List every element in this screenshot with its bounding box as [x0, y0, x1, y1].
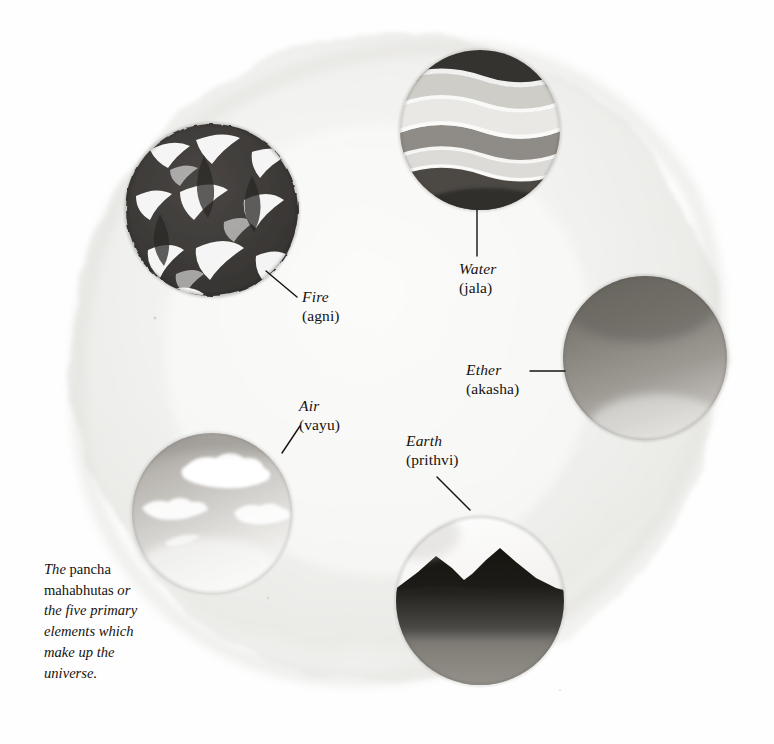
label-water-sanskrit: (jala)	[459, 279, 496, 298]
caption-line4: elements which	[44, 623, 134, 639]
label-ether: Ether (akasha)	[466, 361, 519, 399]
label-air-english: Air	[299, 397, 340, 416]
caption-mahabhutas: mahabhutas	[44, 582, 117, 598]
label-fire-english: Fire	[302, 288, 340, 307]
label-earth-sanskrit: (prithvi)	[406, 451, 459, 470]
caption-pancha: pancha	[66, 561, 111, 577]
label-air: Air (vayu)	[299, 397, 340, 435]
caption-line5: make up the	[44, 644, 115, 660]
label-fire: Fire (agni)	[302, 288, 340, 326]
label-earth: Earth (prithvi)	[406, 432, 459, 470]
caption-line6: universe.	[44, 665, 97, 681]
label-fire-sanskrit: (agni)	[302, 307, 340, 326]
caption-the: The	[44, 561, 66, 577]
caption-or: or	[117, 582, 130, 598]
label-earth-english: Earth	[406, 432, 459, 451]
label-ether-sanskrit: (akasha)	[466, 380, 519, 399]
caption-line3: the five primary	[44, 602, 137, 618]
label-water-english: Water	[459, 260, 496, 279]
label-air-sanskrit: (vayu)	[299, 416, 340, 435]
figure-caption: The pancha mahabhutas or the five primar…	[44, 559, 194, 683]
label-water: Water (jala)	[459, 260, 496, 298]
pancha-mahabhuta-figure: Fire (agni) Water (jala) Ether (akasha) …	[0, 0, 774, 744]
label-ether-english: Ether	[466, 361, 519, 380]
